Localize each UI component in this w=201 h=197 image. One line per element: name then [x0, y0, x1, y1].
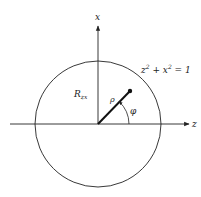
unit-circle-diagram: x z z2 + x2 = 1 Rzx ρ φ [0, 0, 201, 197]
phi-label: φ [130, 106, 137, 116]
z-axis-label: z [191, 119, 197, 129]
rho-endpoint-dot [128, 89, 132, 93]
phi-angle-arc [119, 102, 129, 125]
rho-label: ρ [109, 95, 115, 104]
radius-label: Rzx [73, 89, 88, 100]
circle-equation: z2 + x2 = 1 [140, 63, 191, 75]
x-axis-label: x [95, 12, 100, 22]
